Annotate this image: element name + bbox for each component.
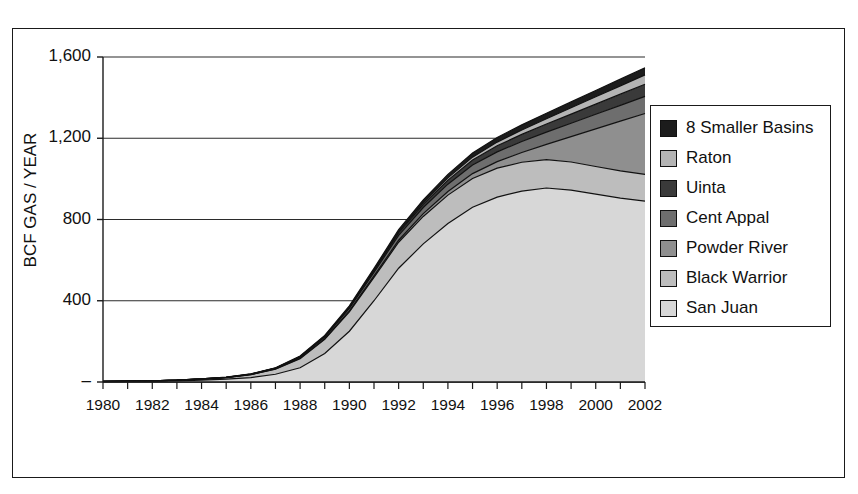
legend-item[interactable]: Black Warrior [660, 263, 830, 293]
legend-item[interactable]: Cent Appal [660, 203, 830, 233]
x-tick-label: 1984 [179, 396, 225, 414]
y-tick-label: 1,200 [21, 127, 91, 147]
legend-item-label: Powder River [686, 238, 788, 258]
y-tick-label: – [21, 371, 91, 391]
legend-item-label: Raton [686, 148, 731, 168]
legend-item-label: Cent Appal [686, 208, 769, 228]
y-tick-label: 1,600 [21, 46, 91, 66]
legend: 8 Smaller BasinsRatonUintaCent AppalPowd… [650, 105, 831, 327]
y-tick-label: 800 [21, 209, 91, 229]
x-tick-label: 1998 [523, 396, 569, 414]
legend-swatch-icon [660, 120, 677, 137]
x-tick-label: 1980 [80, 396, 126, 414]
x-tick-label: 1988 [277, 396, 323, 414]
legend-item-label: Black Warrior [686, 268, 787, 288]
legend-swatch-icon [660, 240, 677, 257]
legend-swatch-icon [660, 210, 677, 227]
y-tick-label: 400 [21, 290, 91, 310]
x-tick-label: 1986 [228, 396, 274, 414]
legend-item-label: Uinta [686, 178, 726, 198]
legend-item[interactable]: Uinta [660, 173, 830, 203]
x-tick-label: 1996 [474, 396, 520, 414]
legend-item-label: 8 Smaller Basins [686, 118, 814, 138]
legend-item[interactable]: Powder River [660, 233, 830, 263]
legend-swatch-icon [660, 150, 677, 167]
legend-item[interactable]: San Juan [660, 293, 830, 323]
x-tick-label: 1994 [425, 396, 471, 414]
legend-item-label: San Juan [686, 298, 758, 318]
legend-swatch-icon [660, 270, 677, 287]
x-tick-label: 1990 [326, 396, 372, 414]
x-tick-label: 2000 [573, 396, 619, 414]
legend-swatch-icon [660, 300, 677, 317]
legend-swatch-icon [660, 180, 677, 197]
x-tick-label: 2002 [622, 396, 668, 414]
legend-item[interactable]: Raton [660, 143, 830, 173]
legend-item[interactable]: 8 Smaller Basins [660, 113, 830, 143]
x-tick-label: 1992 [376, 396, 422, 414]
x-tick-label: 1982 [129, 396, 175, 414]
